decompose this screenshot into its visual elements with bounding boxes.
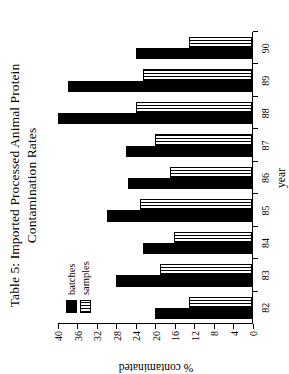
y-axis-tick [58,324,59,329]
legend-item-batches: batches [66,261,77,313]
legend-label-samples: samples [80,261,91,295]
bar-batches-82 [155,308,252,319]
y-axis-tick-label: 16 [170,331,181,341]
x-axis-tick-label: 84 [260,238,271,248]
y-axis-tick [116,324,117,329]
bar-batches-87 [126,146,252,157]
x-axis-tick-label: 86 [260,173,271,183]
chart-title-line-2: Contamination Rates [23,0,40,371]
x-axis-tick-label: 89 [260,76,271,86]
y-axis-tick-label: 0 [248,331,259,336]
bar-batches-88 [58,113,252,124]
legend-item-samples: samples [80,261,91,313]
bar-samples-85 [140,199,252,210]
x-axis-tick-label: 88 [260,108,271,118]
legend-label-batches: batches [66,264,77,296]
x-axis-tick [253,226,258,227]
y-axis-tick [136,324,137,329]
y-axis-title: % contaminated [118,362,192,374]
x-axis-line [252,32,253,324]
y-axis-tick-label: 36 [72,331,83,341]
bar-samples-87 [155,134,252,145]
bar-samples-90 [189,37,252,48]
solid-black-swatch-icon [66,300,77,313]
bar-batches-83 [116,275,252,286]
chart-title-line-1: Table 5: Imported Processed Animal Prote… [7,64,22,308]
x-axis-tick-label: 82 [260,303,271,313]
bar-samples-84 [174,232,252,243]
y-axis-tick [194,324,195,329]
bar-batches-84 [143,243,252,254]
y-axis-tick [155,324,156,329]
bar-batches-89 [68,81,252,92]
x-axis-tick [253,161,258,162]
bar-batches-90 [136,48,252,59]
y-axis-tick-label: 24 [131,331,142,341]
x-axis-tick-label: 90 [260,43,271,53]
y-axis-tick-label: 4 [228,331,239,336]
y-axis-tick-label: 32 [92,331,103,341]
x-axis-tick [253,96,258,97]
x-axis-tick [253,31,258,32]
y-axis-tick-label: 12 [189,331,200,341]
vertical-hatch-swatch-icon [80,300,91,313]
bar-batches-85 [107,210,253,221]
y-axis-tick-label: 20 [150,331,161,341]
x-axis-tick [253,193,258,194]
y-axis-tick-label: 28 [111,331,122,341]
x-axis-tick [253,258,258,259]
x-axis-tick-label: 87 [260,141,271,151]
x-axis-tick [253,128,258,129]
chart-title: Table 5: Imported Processed Animal Prote… [6,0,41,371]
x-axis-tick-label: 85 [260,205,271,215]
bar-samples-88 [136,102,252,113]
x-axis-tick-label: 83 [260,270,271,280]
y-axis-tick [253,324,254,329]
x-axis-tick [253,291,258,292]
bar-samples-89 [143,69,252,80]
chart-legend: batches samples [66,261,91,313]
y-axis-tick-label: 40 [53,331,64,341]
bar-samples-86 [170,167,252,178]
y-axis-tick [77,324,78,329]
x-axis-tick [253,63,258,64]
y-axis-tick [175,324,176,329]
x-axis-title: year [275,168,287,188]
bar-samples-82 [189,297,252,308]
y-axis-tick [97,324,98,329]
y-axis-tick [214,324,215,329]
y-axis-tick-label: 8 [209,331,220,336]
y-axis-tick [233,324,234,329]
bar-batches-86 [128,178,252,189]
bar-samples-83 [160,264,252,275]
